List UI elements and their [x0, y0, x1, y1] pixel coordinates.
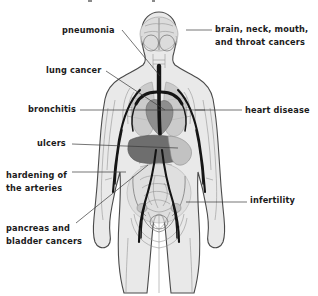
label-pneumonia: pneumonia [62, 25, 115, 35]
label-pancreas-and-bladder-cancers: pancreas andbladder cancers [6, 223, 82, 246]
label-line: pancreas and [6, 223, 70, 233]
label-line: bladder cancers [6, 236, 82, 246]
label-heart-disease: heart disease [245, 105, 310, 115]
label-line: infertility [250, 195, 296, 205]
label-line: ulcers [37, 138, 66, 148]
cropped-title-fragment [88, 0, 155, 2]
label-bronchitis: bronchitis [28, 104, 76, 114]
label-hardening-of-the-arteries: hardening ofthe arteries [6, 170, 67, 193]
label-line: brain, neck, mouth, [215, 24, 308, 34]
label-line: the arteries [6, 183, 62, 193]
label-line: bronchitis [28, 104, 76, 114]
label-line: pneumonia [62, 25, 115, 35]
anatomy-diagram: pneumonialung cancerbronchitisulcershard… [0, 0, 318, 296]
label-ulcers: ulcers [37, 138, 66, 148]
label-infertility: infertility [250, 195, 296, 205]
brain-organ [140, 17, 178, 51]
label-brain-neck-mouth-and-throat-cancers: brain, neck, mouth,and throat cancers [215, 24, 308, 47]
label-line: heart disease [245, 105, 310, 115]
label-line: hardening of [6, 170, 67, 180]
label-lung-cancer: lung cancer [46, 65, 102, 75]
label-line: and throat cancers [215, 37, 305, 47]
label-line: lung cancer [46, 65, 102, 75]
